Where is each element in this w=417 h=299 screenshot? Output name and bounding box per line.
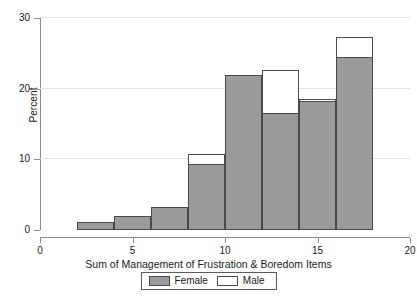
bar-female-8-10 [188,164,225,230]
y-tick-0 [34,230,40,231]
y-tick-label-0: 0 [4,225,30,235]
x-tick-label-5: 5 [118,245,148,256]
x-tick-10 [225,238,226,243]
bar-female-4-6 [114,216,151,230]
legend-swatch-female [148,276,169,286]
x-tick-label-20: 20 [395,245,417,256]
plot-area [40,18,410,230]
x-tick-20 [410,238,411,243]
y-tick-label-30: 30 [4,13,30,23]
bar-female-12-14 [262,113,299,230]
x-tick-label-15: 15 [303,245,333,256]
x-tick-5 [133,238,134,243]
legend-label-male: Male [243,275,265,287]
bar-female-14-16 [299,101,336,230]
y-tick-label-20: 20 [4,84,30,94]
bar-female-10-12 [225,75,262,230]
y-tick-label-10: 10 [4,154,30,164]
x-axis-label: Sum of Management of Frustration & Bored… [0,258,417,270]
legend-swatch-male [217,276,238,286]
x-tick-label-10: 10 [210,245,240,256]
bar-female-6-8 [151,207,188,230]
chart-legend: Female Male [140,272,276,290]
x-tick-15 [318,238,319,243]
x-tick-label-0: 0 [25,245,55,256]
legend-label-female: Female [174,275,207,287]
y-axis-label: Percent [28,70,39,140]
bar-female-16-18 [336,57,373,230]
gridline-30 [40,17,410,18]
histogram-figure: Percent 0102030 05101520 Sum of Manageme… [0,0,417,299]
bar-female-2-4 [77,222,114,230]
x-tick-0 [40,238,41,243]
